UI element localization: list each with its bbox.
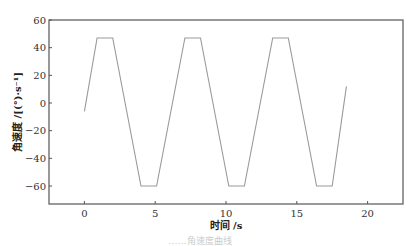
y-axis-title: 角速度 /[(°)·s⁻¹] — [11, 72, 23, 152]
y-tick-label: −20 — [25, 125, 46, 136]
data-line — [84, 38, 346, 186]
y-tick-label: 20 — [33, 70, 46, 81]
y-tick-label: −60 — [25, 181, 46, 192]
y-axis-ticks: 6040200−20−40−60 — [25, 15, 52, 192]
y-tick-label: 0 — [40, 98, 46, 109]
x-tick-label: 15 — [290, 208, 303, 219]
x-tick-label: 5 — [152, 208, 158, 219]
x-tick-label: 20 — [361, 208, 374, 219]
plot-frame — [49, 20, 403, 204]
x-tick-label: 0 — [81, 208, 87, 219]
x-axis-title: 时间 /s — [210, 219, 243, 231]
y-tick-label: 40 — [33, 42, 46, 53]
y-tick-label: −40 — [25, 153, 46, 164]
figure-caption: ……角速度曲线 — [169, 235, 232, 246]
x-tick-label: 10 — [220, 208, 233, 219]
y-tick-label: 60 — [33, 15, 46, 26]
angular-velocity-chart: 6040200−20−40−60 05101520 时间 /s 角速度 /[(°… — [0, 0, 414, 246]
